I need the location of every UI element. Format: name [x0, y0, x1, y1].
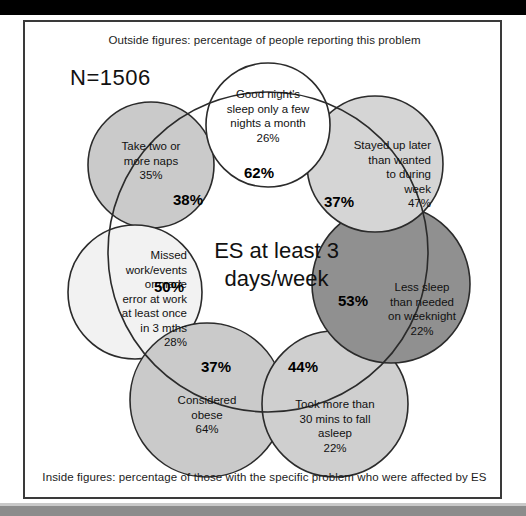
figure-page: Outside figures: percentage of people re…: [0, 0, 526, 516]
outside-pct-considered-obese: 64%: [153, 422, 261, 437]
inside-pct-stayed-up-later: 37%: [324, 193, 354, 210]
inside-pct-good-night-sleep: 62%: [244, 164, 274, 181]
outside-pct-less-sleep-weeknight: 22%: [373, 324, 471, 339]
label-good-night-sleep: Good night's sleep only a few nights a m…: [213, 87, 323, 131]
inside-pct-missed-work: 50%: [154, 278, 184, 295]
outside-pct-good-night-sleep: 26%: [213, 131, 323, 146]
bottom-gray-band: [0, 506, 526, 516]
label-took-30-mins: Took more than 30 mins to fall asleep: [279, 397, 391, 441]
outside-pct-two-or-more-naps: 35%: [97, 168, 205, 183]
sample-size-label: N=1506: [70, 65, 151, 91]
inside-pct-considered-obese: 37%: [201, 358, 231, 375]
outside-pct-missed-work: 28%: [81, 335, 187, 350]
label-considered-obese: Considered obese: [153, 393, 261, 422]
label-two-or-more-naps: Take two or more naps: [97, 139, 205, 168]
caption-bottom: Inside figures: percentage of those with…: [25, 471, 504, 483]
label-stayed-up-later: Stayed up later than wanted to during we…: [319, 138, 431, 196]
inside-pct-less-sleep-weeknight: 53%: [338, 292, 368, 309]
figure-frame: Outside figures: percentage of people re…: [23, 20, 502, 499]
outside-pct-took-30-mins: 22%: [279, 441, 391, 456]
inside-pct-took-30-mins: 44%: [288, 358, 318, 375]
top-black-band: [0, 0, 526, 15]
label-less-sleep-weeknight: Less sleep than needed on weeknight: [373, 280, 471, 324]
center-label: ES at least 3 days/week: [184, 237, 369, 293]
inside-pct-two-or-more-naps: 38%: [173, 191, 203, 208]
